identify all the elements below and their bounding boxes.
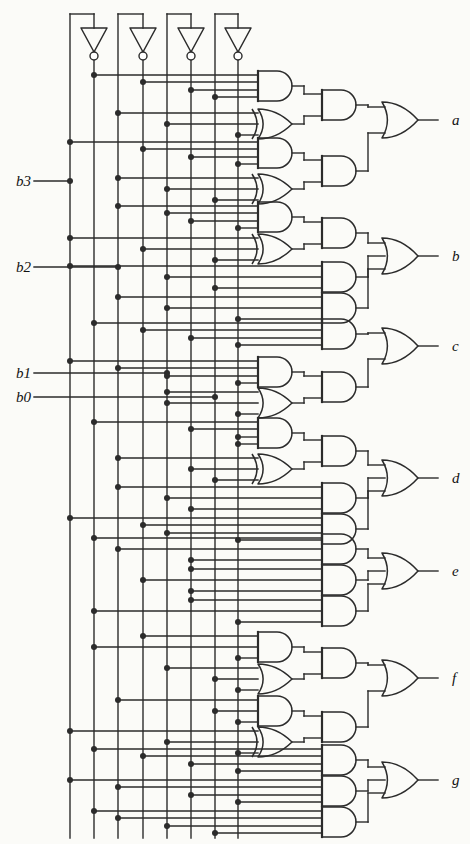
inverter-bubble-1: [139, 52, 147, 60]
segment-g-stage2-and-0-in-dot-3: [235, 768, 241, 774]
segment-f-stage1-or-1-in-dot-0: [164, 665, 170, 671]
segment-f-stage1-and-0-in-dot-2: [235, 655, 241, 661]
segment-c-stage1-or-1-in-dot-2: [235, 411, 241, 417]
segment-f-stage1-xor-3-in-dot-1: [164, 739, 170, 745]
segment-a-stage1-and-0-in-dot-2: [188, 87, 194, 93]
segment-c-stage2-and-0-in-dot-0: [91, 320, 97, 326]
segment-a-stage2-and-1: [322, 156, 356, 186]
segment-a-stage1-xor-3-in-dot-2: [212, 197, 218, 203]
segment-c-stage1-and-0: [258, 357, 292, 387]
segment-c-stage2-and-0-in-dot-1: [140, 327, 146, 333]
segment-g-stage2-and-0-in-dot-2: [188, 761, 194, 767]
segment-e-stage2-and-1-in-dot-0: [188, 566, 194, 572]
segment-d-stage1-and-0-in-dot-1: [188, 426, 194, 432]
segment-g-stage2-and-2-in-dot-0: [91, 808, 97, 814]
segment-g-stage2-and-2: [322, 807, 356, 837]
segment-d-output-or: [382, 460, 418, 496]
segment-a-stage1-xor-3-in-dot-1: [164, 186, 170, 192]
segment-g-stage2-and-0-in-dot-0: [91, 746, 97, 752]
inverter-bubble-2: [187, 52, 195, 60]
segment-b-stage2-and-2-in-dot-2: [235, 316, 241, 322]
segment-a-stage1-and-2-in-dot-3: [235, 161, 241, 167]
segment-e-stage2-and-0-in-dot-2: [188, 557, 194, 563]
inverter-3: [225, 28, 251, 52]
input-label-b0: b0: [16, 389, 32, 405]
segment-a-stage1-and-0-in-dot-1: [140, 79, 146, 85]
segment-a-stage1-xor-1-in-dot-1: [164, 121, 170, 127]
segment-b-stage2-and-2-in-dot-1: [164, 305, 170, 311]
segment-f-stage1-xor-3: [258, 727, 292, 757]
segment-f-stage2-and-1: [322, 712, 356, 742]
segment-b-stage2-and-1-in-dot-2: [212, 285, 218, 291]
inverter-2: [178, 28, 204, 52]
segment-b-stage1-xor-1-in-dot-2: [212, 257, 218, 263]
segment-g-stage2-and-1-in-dot-0: [67, 777, 73, 783]
segment-b-stage2-and-2-in-dot-0: [115, 294, 121, 300]
segment-e-stage2-and-0: [322, 534, 356, 564]
segment-b-stage1-xor-1-in-dot-1: [140, 246, 146, 252]
segment-c-stage1-and-0-in-dot-0: [67, 358, 73, 364]
segment-e-stage2-and-1-in-dot-1: [140, 577, 146, 583]
segment-d-stage1-and-0-in-dot-3: [235, 441, 241, 447]
segment-d-stage2-and-0: [322, 436, 356, 466]
segment-e-stage2-and-1: [322, 565, 356, 595]
segment-e-output-or: [382, 553, 418, 589]
segment-c-stage1-and-0-in-dot-3: [235, 380, 241, 386]
output-label-c: c: [452, 338, 459, 354]
segment-f-stage2-and-0: [322, 648, 356, 678]
segment-e-stage2-and-0-in-dot-0: [91, 535, 97, 541]
segment-d-stage1-and-0: [258, 418, 292, 448]
segment-e-stage2-and-2-in-dot-1: [91, 608, 97, 614]
segment-c-stage1-or-1-in-dot-0: [164, 389, 170, 395]
segment-g-stage2-and-1-in-dot-3: [235, 799, 241, 805]
segment-b-stage1-and-0-in-dot-3: [235, 225, 241, 231]
input-dot-b2: [115, 264, 121, 270]
segment-c-stage1-and-0-in-dot-2: [164, 373, 170, 379]
segment-f-stage1-or-1-in-dot-1: [212, 676, 218, 682]
segment-c-stage2-and-0-in-dot-2: [188, 335, 194, 341]
segment-g-stage2-and-0: [322, 745, 356, 775]
segment-b-stage1-and-0: [258, 202, 292, 232]
segment-c-stage1-or-1-in-dot-1: [164, 400, 170, 406]
segment-a-stage1-xor-1-in-dot-0: [115, 110, 121, 116]
segment-a-stage1-and-0: [258, 71, 292, 101]
segment-d-stage2-and-1-in-dot-2: [188, 506, 194, 512]
segment-b-stage2-and-1: [322, 262, 356, 292]
segment-f-stage1-and-0: [258, 632, 292, 662]
inverter-1: [130, 28, 156, 52]
segment-b-stage2-and-1-in-dot-0: [67, 263, 73, 269]
output-label-e: e: [452, 563, 459, 579]
segment-f-stage1-xor-3-in-dot-0: [67, 728, 73, 734]
segment-f-stage1-and-2-in-dot-0: [115, 697, 121, 703]
segment-a-stage1-and-2: [258, 138, 292, 168]
segment-a-stage1-and-2-in-dot-1: [140, 146, 146, 152]
segment-g-stage2-and-2-in-dot-3: [212, 830, 218, 836]
input-label-b1: b1: [16, 365, 31, 381]
segment-f-stage1-xor-3-in-dot-2: [235, 750, 241, 756]
logic-circuit-svg: b3b2b1b0abcdefg: [0, 0, 470, 844]
segment-g-stage2-and-2-in-dot-2: [164, 823, 170, 829]
segment-c-stage2-and-0-in-dot-3: [235, 342, 241, 348]
segment-c-stage1-or-1: [258, 388, 292, 418]
segment-g-stage2-and-2-in-dot-1: [115, 815, 121, 821]
segment-d-stage2-and-1: [322, 483, 356, 513]
output-label-f: f: [452, 670, 458, 686]
segment-b-stage1-and-0-in-dot-2: [188, 218, 194, 224]
segment-b-stage1-xor-1: [258, 234, 292, 264]
input-label-b3: b3: [16, 173, 31, 189]
segment-a-stage1-xor-3: [258, 174, 292, 204]
segment-e-stage2-and-1-in-dot-2: [188, 588, 194, 594]
segment-f-stage1-and-0-in-dot-1: [91, 644, 97, 650]
segment-d-stage1-xor-1-in-dot-0: [115, 455, 121, 461]
segment-d-stage1-xor-1-in-dot-1: [188, 466, 194, 472]
segment-b-stage2-and-1-in-dot-1: [164, 274, 170, 280]
segment-e-stage2-and-2-in-dot-2: [235, 619, 241, 625]
segment-b-stage1-xor-1-in-dot-0: [67, 235, 73, 241]
segment-d-stage2-and-2-in-dot-0: [67, 515, 73, 521]
segment-a-stage1-and-0-in-dot-3: [212, 94, 218, 100]
wire-layer: [34, 14, 438, 838]
segment-a-stage2-and-0: [322, 90, 356, 120]
segment-d-stage1-xor-1: [258, 454, 292, 484]
output-label-b: b: [452, 248, 460, 264]
segment-f-stage1-and-2-in-dot-2: [235, 719, 241, 725]
